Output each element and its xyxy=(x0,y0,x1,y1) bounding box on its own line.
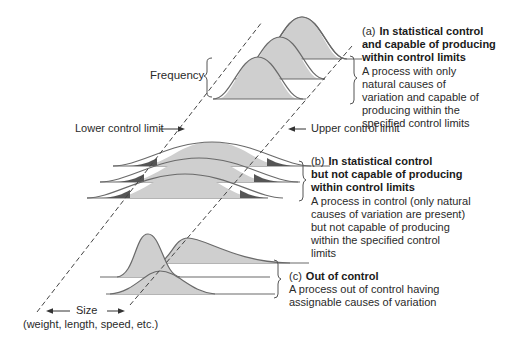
case-b-title-line-1: (b)In statistical control xyxy=(311,155,509,168)
case-c-tag: (c) xyxy=(289,270,302,282)
case-b-desc-line-1: A process in control (only natural xyxy=(311,195,509,208)
case-b-desc-line-3: but not capable of producing xyxy=(311,221,509,234)
case-b-desc-line-2: causes of variation are present) xyxy=(311,208,509,221)
upper-limit-arrow xyxy=(288,126,306,131)
group-c-brace xyxy=(274,260,281,298)
case-a-tag: (a) xyxy=(362,25,375,37)
case-b-description: (b)In statistical control but not capabl… xyxy=(311,155,509,261)
case-a-desc-line-1: A process with only xyxy=(362,65,509,78)
case-c-desc-line-2: assignable causes of variation xyxy=(289,296,489,309)
case-b-tag: (b) xyxy=(311,155,324,167)
group-a-distributions xyxy=(213,17,362,99)
lower-limit-arrow xyxy=(160,126,185,131)
case-a-description: (a)In statistical control and capable of… xyxy=(362,25,509,131)
frequency-label: Frequency xyxy=(150,69,204,82)
frequency-brace xyxy=(204,58,212,97)
case-a-desc-line-5: specified control limits xyxy=(362,117,509,130)
case-a-title-line-2: and capable of producing xyxy=(362,38,509,51)
size-sublabel: (weight, length, speed, etc.) xyxy=(23,318,158,331)
group-a-brace xyxy=(350,56,357,104)
case-a-desc-line-2: natural causes of xyxy=(362,78,509,91)
group-b-distributions xyxy=(87,142,330,198)
case-a-desc-line-4: producing within the xyxy=(362,104,509,117)
lower-control-limit-label: Lower control limit xyxy=(75,122,164,135)
case-c-title-line-1: (c)Out of control xyxy=(289,270,489,283)
case-b-title-line-2: but not capable of producing xyxy=(311,168,509,181)
case-b-desc-line-5: limits xyxy=(311,247,509,260)
group-b-brace xyxy=(299,161,306,201)
case-c-desc-line-1: A process out of control having xyxy=(289,283,489,296)
case-a-title-line-3: within control limits xyxy=(362,51,509,64)
case-a-title-line-1: (a)In statistical control xyxy=(362,25,509,38)
case-c-description: (c)Out of control A process out of contr… xyxy=(289,270,489,310)
case-b-desc-line-4: within the specified control xyxy=(311,234,509,247)
case-a-desc-line-3: variation and capable of xyxy=(362,91,509,104)
case-b-title-line-3: within control limits xyxy=(311,181,509,194)
size-label: Size xyxy=(76,304,97,317)
